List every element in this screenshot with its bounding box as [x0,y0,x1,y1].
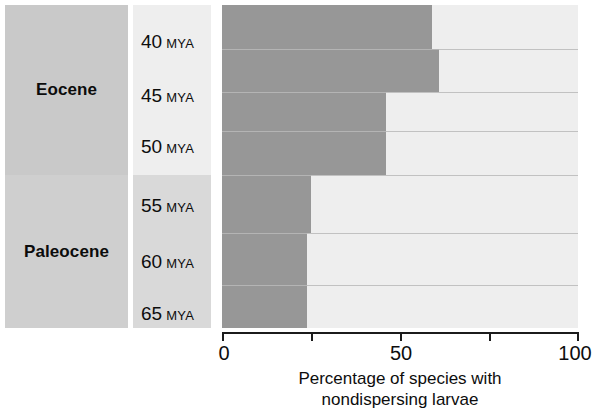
time-label-55: 55 MYA [133,195,211,215]
bar-row [222,49,578,92]
time-label-65-number: 65 [141,303,162,325]
time-label-50-number: 50 [141,136,162,158]
x-axis-title-line1: Percentage of species with [222,368,578,389]
time-label-65: 65 MYA [133,303,211,323]
time-label-40: 40 MYA [133,31,211,51]
bar-remainder-dispersing [386,92,578,131]
time-axis-panel: 40 MYA 45 MYA 50 MYA 55 MYA 60 MYA 65 MY… [133,5,211,328]
time-label-50: 50 MYA [133,136,211,156]
bar-remainder-dispersing [386,131,578,175]
bar-row [222,131,578,175]
x-axis-tick-50 [400,332,402,341]
time-label-60-unit: MYA [166,256,194,271]
x-axis-title: Percentage of species with nondispersing… [222,368,578,410]
row-separator [222,285,578,286]
x-axis-label-0: 0 [218,342,229,365]
bar-row [222,175,578,233]
time-label-55-number: 55 [141,195,162,217]
epoch-label-eocene: Eocene [5,5,128,175]
x-axis-tick-100 [577,332,579,341]
row-separator [222,175,578,176]
row-separator [222,131,578,132]
bar-fill-nondispersing [222,175,311,233]
row-separator [222,49,578,50]
time-label-45-number: 45 [141,85,162,107]
time-label-40-number: 40 [141,31,162,53]
epoch-panel: Eocene Paleocene [5,5,128,328]
epoch-label-paleocene-text: Paleocene [24,242,109,262]
row-separator [222,233,578,234]
bar-fill-nondispersing [222,92,386,131]
bar-remainder-dispersing [432,5,578,49]
bar-fill-nondispersing [222,5,432,49]
bar-fill-nondispersing [222,285,307,328]
bar-fill-nondispersing [222,233,307,285]
x-axis-tick-75 [489,332,491,341]
x-axis-tick-0 [222,332,224,341]
epoch-label-eocene-text: Eocene [36,80,97,100]
bar-row [222,5,578,49]
time-label-60: 60 MYA [133,251,211,271]
bar-row [222,285,578,328]
bar-row [222,233,578,285]
x-axis-label-100: 100 [558,342,591,365]
time-label-40-unit: MYA [166,36,194,51]
x-axis-title-line2: nondispersing larvae [222,389,578,410]
bar-fill-nondispersing [222,131,386,175]
x-axis-tick-25 [311,332,313,341]
row-separator [222,92,578,93]
bar-remainder-dispersing [307,285,578,328]
time-label-50-unit: MYA [166,141,194,156]
plot-area [222,5,578,328]
time-label-45-unit: MYA [166,90,194,105]
epoch-label-paleocene: Paleocene [5,175,128,328]
bar-fill-nondispersing [222,49,439,92]
time-label-65-unit: MYA [166,308,194,323]
chart-root: Eocene Paleocene 40 MYA 45 MYA 50 MYA 55… [0,0,598,416]
bar-remainder-dispersing [439,49,578,92]
bar-remainder-dispersing [311,175,578,233]
time-label-60-number: 60 [141,251,162,273]
bar-row [222,92,578,131]
bar-remainder-dispersing [307,233,578,285]
x-axis-label-50: 50 [390,342,412,365]
time-label-45: 45 MYA [133,85,211,105]
time-label-55-unit: MYA [166,200,194,215]
